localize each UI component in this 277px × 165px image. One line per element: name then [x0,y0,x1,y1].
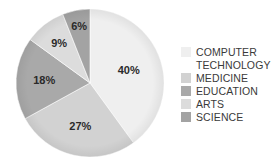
legend-swatch [181,73,191,83]
slice-value-label: 6% [71,20,87,32]
legend-item-science: SCIENCE [181,111,271,124]
legend-label: SCIENCE [196,111,243,124]
legend-swatch [181,99,191,109]
legend-item-computer-technology: COMPUTER TECHNOLOGY [181,46,271,72]
slice-value-label: 18% [33,74,55,86]
legend-label: COMPUTER TECHNOLOGY [196,46,271,72]
legend-item-education: EDUCATION [181,85,271,98]
legend-label: ARTS [196,98,224,111]
legend-item-arts: ARTS [181,98,271,111]
legend-item-medicine: MEDICINE [181,72,271,85]
slice-value-label: 27% [69,120,91,132]
slice-value-label: 40% [118,64,140,76]
slice-value-label: 9% [51,37,67,49]
chart-legend: COMPUTER TECHNOLOGY MEDICINE EDUCATION A… [181,46,271,124]
legend-swatch [181,112,191,122]
pie-chart: 40%27%18%9%6% [0,0,180,165]
legend-label: MEDICINE [196,72,248,85]
legend-swatch [181,86,191,96]
legend-label: EDUCATION [196,85,258,98]
legend-swatch [181,47,191,57]
